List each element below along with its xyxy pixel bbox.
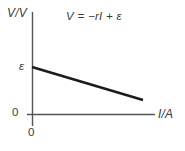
equation-annotation: V = −rI + ε [66, 11, 122, 23]
data-line [32, 67, 143, 100]
x-axis-label-text: I/A [158, 107, 173, 121]
y-axis-tick-epsilon: ε [19, 61, 24, 73]
y-axis-tick-zero: 0 [12, 107, 18, 119]
graph-figure: V/V I/A V = −rI + ε ε 0 0 [0, 0, 185, 151]
x-axis-tick-zero: 0 [28, 127, 34, 139]
y-axis-label-text: V/V [7, 6, 27, 20]
y-axis-label: V/V [7, 7, 27, 19]
x-axis-label: I/A [158, 108, 173, 120]
